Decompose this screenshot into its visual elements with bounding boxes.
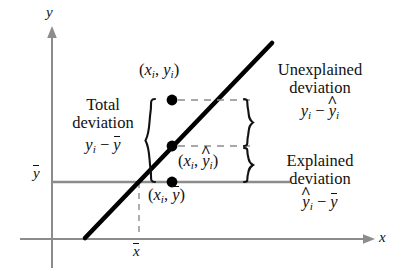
- point-label-mean: (xi, y): [148, 186, 185, 206]
- unexplained-deviation-line1: Unexplained: [254, 61, 386, 79]
- x-axis: [20, 234, 375, 244]
- total-deviation-formula: yi − y: [62, 136, 144, 156]
- y-axis-label: y: [46, 4, 53, 21]
- total-deviation-annotation: Total deviation yi − y: [62, 96, 144, 156]
- x-axis-label: x: [379, 229, 386, 246]
- regression-deviation-diagram: y x y x (xi, yi) (xi, yi) (xi, y) Total …: [0, 0, 393, 269]
- unexplained-deviation-brace: [244, 99, 253, 146]
- explained-deviation-line2: deviation: [256, 170, 384, 188]
- total-deviation-line1: Total: [62, 96, 144, 114]
- explained-deviation-brace: [244, 148, 253, 182]
- explained-deviation-formula: yi − y: [256, 193, 384, 213]
- total-deviation-line2: deviation: [62, 114, 144, 132]
- unexplained-deviation-annotation: Unexplained deviation yi − yi: [254, 61, 386, 122]
- x-mean-tick-label: x: [133, 243, 140, 260]
- point-label-observed: (xi, yi): [139, 61, 179, 81]
- unexplained-deviation-line2: deviation: [254, 79, 386, 97]
- explained-deviation-line1: Explained: [256, 152, 384, 170]
- y-axis: [47, 26, 57, 268]
- y-mean-tick-label: y: [33, 165, 40, 182]
- unexplained-deviation-formula: yi − yi: [254, 102, 386, 122]
- data-point-observed: [167, 95, 178, 106]
- point-label-predicted: (xi, yi): [178, 152, 218, 172]
- diagram-canvas: [0, 0, 393, 269]
- explained-deviation-annotation: Explained deviation yi − y: [256, 152, 384, 213]
- data-point-predicted: [167, 141, 178, 152]
